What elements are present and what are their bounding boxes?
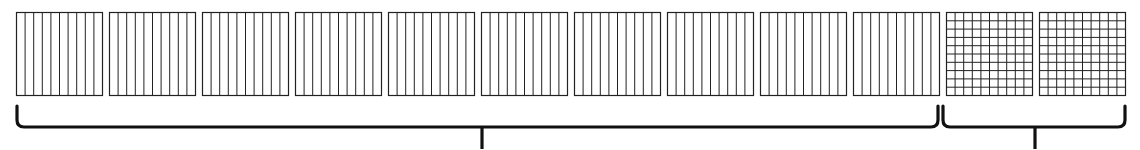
ten-rods-block	[482, 13, 568, 96]
base-ten-diagram	[0, 0, 1140, 149]
ten-rods-block	[296, 13, 382, 96]
ten-rods-block	[668, 13, 754, 96]
brace	[17, 106, 938, 127]
ten-rods-block	[389, 13, 475, 96]
ten-rods-block	[110, 13, 196, 96]
brace	[943, 106, 1125, 127]
ten-rods-block	[575, 13, 661, 96]
ten-rods-block	[17, 13, 103, 96]
rod-blocks-group	[17, 13, 940, 150]
ten-rods-block	[761, 13, 847, 96]
hundred-flat-block	[1040, 13, 1126, 96]
ten-rods-block	[203, 13, 289, 96]
ten-rods-block	[854, 13, 940, 96]
hundred-flat-block	[947, 13, 1033, 96]
grid-blocks-group	[943, 13, 1126, 150]
